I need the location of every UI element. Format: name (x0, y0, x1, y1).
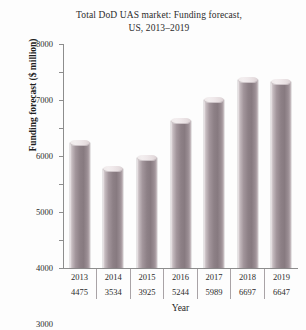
bar-cap (204, 97, 224, 103)
table-cell-value: 3534 (97, 284, 131, 299)
table-cell-value: 6647 (264, 284, 298, 299)
table-cell-value: 3925 (130, 284, 164, 299)
y-tick-label: 3000 (36, 319, 53, 329)
table-row-values: 4475353439255244598966976647 (63, 284, 298, 299)
chart-figure: Total DoD UAS market: Funding forecast, … (0, 0, 306, 330)
table-cell-year: 2017 (197, 269, 231, 284)
bar-2014 (103, 169, 123, 268)
table-cell-year: 2019 (264, 269, 298, 284)
y-tick-label: 6000 (36, 151, 53, 161)
bar-2016 (171, 121, 191, 268)
table-cell-year: 2015 (130, 269, 164, 284)
bar-2018 (238, 80, 258, 268)
bar-cap (137, 155, 157, 161)
table-row-years: 2013201420152016201720182019 (63, 269, 298, 284)
bar-2017 (204, 100, 224, 268)
bars-layer (63, 44, 298, 269)
bar-cap (70, 140, 90, 146)
table-cell-year: 2018 (231, 269, 265, 284)
table-cell-value: 5989 (197, 284, 231, 299)
bar-cap (171, 118, 191, 124)
table-cell-value: 6697 (231, 284, 265, 299)
y-tick-label: 7000 (36, 95, 53, 105)
bar-cap (103, 166, 123, 172)
table-cell-value: 5244 (164, 284, 198, 299)
table-cell-year: 2014 (97, 269, 131, 284)
y-tick-label: 5000 (36, 207, 53, 217)
chart-title: Total DoD UAS market: Funding forecast, … (34, 9, 284, 35)
y-tick-label: 4000 (36, 263, 53, 273)
table-cell-year: 2016 (164, 269, 198, 284)
bar-2015 (137, 158, 157, 268)
bar-2013 (70, 143, 90, 268)
chart-title-line-1: Total DoD UAS market: Funding forecast, (76, 10, 242, 20)
table-cell-value: 4475 (63, 284, 97, 299)
y-tick-label: 8000 (36, 39, 53, 49)
bar-cap (271, 79, 291, 85)
chart-title-line-2: US, 2013–2019 (129, 23, 190, 33)
plot-area: 010002000300040005000600070008000 (63, 44, 298, 269)
bar-cap (238, 77, 258, 83)
bar-2019 (271, 82, 291, 268)
data-table: 2013201420152016201720182019 44753534392… (63, 269, 298, 299)
x-axis-title: Year (63, 303, 298, 313)
table-cell-year: 2013 (63, 269, 97, 284)
